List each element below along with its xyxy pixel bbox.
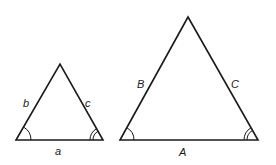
small-triangle: a b c — [16, 64, 103, 157]
large-triangle: A B C — [120, 17, 258, 158]
small-left-angle-mark — [24, 127, 32, 140]
large-side-C-label: C — [231, 78, 239, 90]
small-side-c-label: c — [85, 97, 91, 109]
small-right-angle-mark-inner — [93, 131, 98, 140]
small-side-b-label: b — [23, 97, 29, 109]
similar-triangles-diagram: a b c A B C — [0, 0, 276, 165]
large-side-B-label: B — [137, 78, 144, 90]
large-side-A-label: A — [178, 146, 186, 158]
small-side-a-label: a — [55, 145, 61, 157]
large-right-angle-mark-inner — [247, 130, 253, 140]
large-left-angle-mark — [127, 128, 134, 140]
